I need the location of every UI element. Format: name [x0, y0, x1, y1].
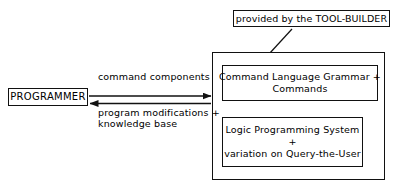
logic-programming-system-box[interactable]: Logic Programming System + variation on …	[222, 117, 363, 167]
programmer-box[interactable]: PROGRAMMER	[8, 88, 88, 106]
tool-builder-note[interactable]: provided by the TOOL-BUILDER	[233, 10, 390, 27]
edge-label-knowledge-base: knowledge base	[98, 118, 177, 130]
command-language-grammar-box[interactable]: Command Language Grammar + Commands	[222, 65, 378, 101]
logic-line-2: +	[288, 136, 296, 148]
edge-label-command-components: command components	[98, 71, 210, 83]
logic-line-3: variation on Query-the-User	[224, 148, 361, 160]
diagram-canvas: provided by the TOOL-BUILDER Command Lan…	[0, 0, 398, 189]
grammar-line-2: Commands	[273, 83, 328, 95]
programmer-label: PROGRAMMER	[10, 91, 86, 104]
grammar-line-1: Command Language Grammar +	[219, 71, 381, 83]
tool-builder-label: provided by the TOOL-BUILDER	[236, 13, 387, 25]
logic-line-1: Logic Programming System	[226, 124, 360, 136]
